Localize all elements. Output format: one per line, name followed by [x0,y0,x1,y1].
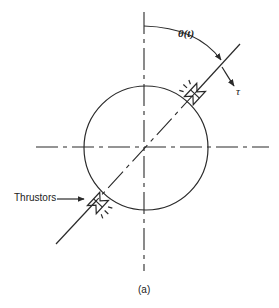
tau-label: τ [236,85,240,97]
torque-arrow [222,67,234,86]
thrustors-label: Thrustors [14,192,56,203]
figure-caption: (a) [138,284,150,295]
satellite-body-circle [84,86,208,210]
satellite-diagram [0,0,279,308]
thruster-upper-icon [178,77,206,104]
rotated-axis-inner [97,92,196,200]
rotated-axis-outer-lower [56,200,97,244]
theta-label: θ(t) [178,27,194,39]
